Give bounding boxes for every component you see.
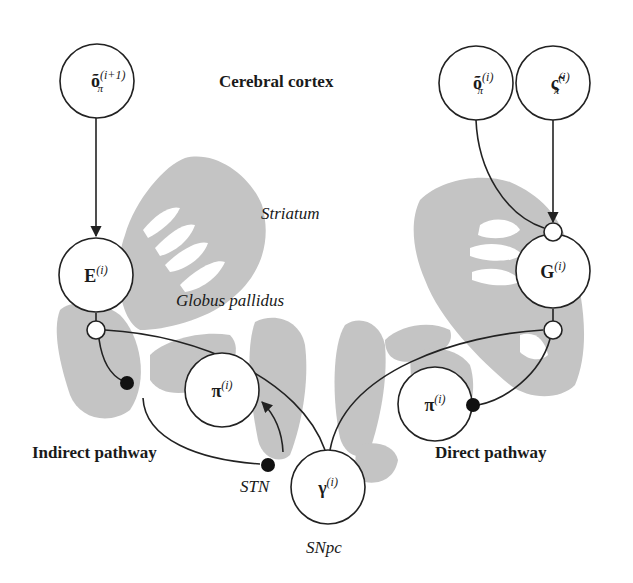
label-o-next: õ(i+1)π [91,68,103,94]
label-xi-cur: ς̃(i)π [551,70,559,96]
label-G: G(i) [540,259,565,283]
label-pi-right: π(i) [424,392,445,416]
label-gamma: γ(i) [318,475,338,499]
region-stn: STN [240,477,269,497]
hollow-synapse-G-top [544,223,562,241]
black-synapse-indirect [120,376,134,390]
label-E: E(i) [84,263,107,287]
black-synapse-stn [261,458,275,472]
region-globus-pallidus: Globus pallidus [176,291,284,311]
region-indirect-pathway: Indirect pathway [32,443,157,463]
black-synapse-direct [466,398,480,412]
label-pi-left: π(i) [211,378,232,402]
region-snpc: SNpc [306,538,342,558]
region-cerebral-cortex: Cerebral cortex [219,72,333,92]
region-direct-pathway: Direct pathway [435,443,547,463]
region-striatum: Striatum [261,204,320,224]
hollow-synapse-right [544,321,562,339]
label-o-cur: õ(i)π [473,70,483,96]
hollow-synapse-left [87,321,105,339]
